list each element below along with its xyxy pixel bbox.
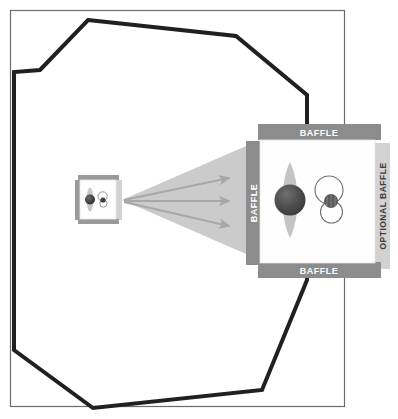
loudspeaker-source-sphere <box>275 185 306 216</box>
baffle-bottom-label: BAFFLE <box>300 266 339 276</box>
device-under-test-station: BAFFLE BAFFLE BAFFLE OPTIONAL BAFFLE <box>246 124 390 278</box>
baffle-left-label: BAFFLE <box>249 184 259 223</box>
ref-baffle-optional-right <box>116 180 122 220</box>
baffle-top-label: BAFFLE <box>300 128 339 138</box>
anechoic-chamber-diagram: BAFFLE BAFFLE BAFFLE OPTIONAL BAFFLE <box>0 0 398 419</box>
baffle-optional-right-label: OPTIONAL BAFFLE <box>378 162 388 249</box>
reference-source-sphere <box>85 195 95 205</box>
ref-baffle-top <box>78 175 119 180</box>
diagram-canvas: BAFFLE BAFFLE BAFFLE OPTIONAL BAFFLE <box>0 0 398 419</box>
reference-source-station-small <box>75 175 122 224</box>
ref-baffle-bottom <box>78 219 119 224</box>
reference-microphone <box>100 197 105 202</box>
